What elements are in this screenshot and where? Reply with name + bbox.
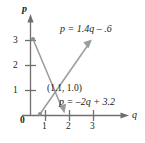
demand-endpoint-dot	[31, 37, 35, 41]
x-axis-label: q	[132, 110, 137, 120]
y-axis	[27, 14, 33, 116]
intersection-point-label: (1.1, 1.0)	[47, 84, 82, 94]
supply-demand-graph-figure: p q 0 3 2 1 1 2 3 p = 1.4q – .6 p = –2q …	[0, 0, 145, 143]
supply-arrow-icon	[83, 40, 92, 49]
y-axis-arrow-icon	[27, 14, 33, 23]
supply-endpoint-dot	[38, 112, 42, 116]
demand-equation-label: p = –2q + 3.2	[59, 97, 115, 107]
x-tick-label-1: 1	[42, 122, 47, 132]
y-axis-label: p	[22, 4, 27, 14]
x-tick-label-2: 2	[66, 122, 71, 132]
y-tick-label-3: 3	[13, 36, 18, 46]
supply-equation-label: p = 1.4q – .6	[60, 24, 112, 34]
x-tick-label-3: 3	[90, 122, 95, 132]
origin-label: 0	[20, 116, 25, 126]
x-axis-arrow-icon	[121, 112, 130, 118]
y-tick-label-1: 1	[13, 86, 18, 96]
y-tick-label-2: 2	[13, 61, 18, 71]
